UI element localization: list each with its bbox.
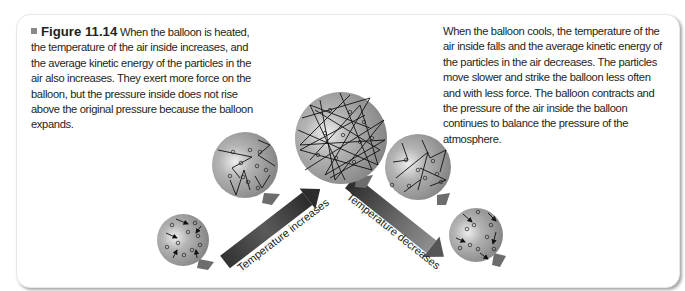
balloon-knot-icon: [197, 259, 214, 270]
label-temperature-decreases: Temperature decreases: [345, 190, 443, 272]
balloon-medium-left: [212, 132, 280, 205]
balloon-small-left: [157, 214, 214, 270]
balloon-small-right: [449, 208, 506, 267]
balloon-medium-right: [385, 134, 451, 205]
balloon-large-center: [295, 92, 387, 188]
balloon-diagram: Temperature increases Temperature decrea…: [0, 0, 685, 291]
